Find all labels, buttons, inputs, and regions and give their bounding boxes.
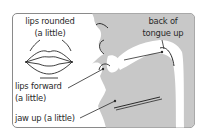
label-lips-rounded: lips rounded (a little): [21, 16, 79, 38]
label-lips-forward-line1: lips forward: [15, 81, 62, 91]
label-jaw-up: jaw up (a little): [15, 113, 75, 123]
lips-front-view-icon: [26, 40, 72, 78]
label-lips-forward: lips forward (a little): [15, 81, 62, 103]
label-back-of-tongue-line1: back of: [138, 16, 188, 26]
label-back-of-tongue: back of tongue up: [138, 16, 188, 38]
label-lips-rounded-line2: (a little): [21, 28, 79, 38]
label-lips-forward-line2: (a little): [15, 93, 62, 103]
label-back-of-tongue-line2: tongue up: [138, 28, 188, 38]
label-lips-rounded-line1: lips rounded: [21, 16, 79, 26]
